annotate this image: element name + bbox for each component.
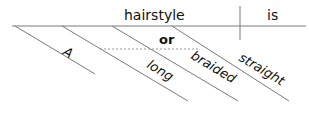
predicate-word-straight: straight: [236, 50, 288, 89]
modifier-word-long: long: [144, 57, 176, 84]
conjunction-word: or: [159, 32, 175, 47]
sentence-diagram: hairstyle is or A long braided straight: [0, 0, 309, 113]
slant-line-a: [15, 26, 95, 74]
subject-word: hairstyle: [124, 7, 185, 23]
verb-word: is: [267, 7, 278, 23]
diagram-canvas: hairstyle is or A long braided straight: [0, 0, 309, 113]
modifier-word-braided: braided: [188, 48, 239, 87]
modifier-word-a: A: [60, 43, 76, 61]
slant-line-straight: [172, 26, 289, 101]
